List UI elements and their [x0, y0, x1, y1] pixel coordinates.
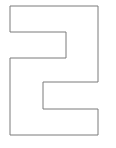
- numeral-two-shape: [10, 6, 98, 135]
- numeral-outline-canvas: 2: [0, 0, 116, 148]
- numeral-two-outline-icon: [0, 0, 116, 148]
